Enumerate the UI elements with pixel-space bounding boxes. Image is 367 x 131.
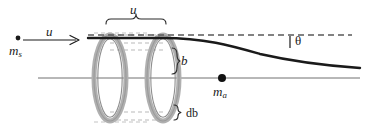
incident-mass-dot (16, 36, 21, 41)
target-mass-symbol: m (213, 84, 222, 99)
label-incident-mass: ms (9, 44, 22, 57)
label-deflection-angle: θ (295, 34, 301, 47)
label-cylinder-length-u: u (130, 3, 137, 16)
incident-mass-symbol: m (9, 43, 18, 58)
label-target-mass: ma (213, 85, 227, 98)
scattering-diagram: u u ms b db ma θ (0, 0, 367, 131)
label-velocity-u: u (46, 25, 53, 38)
target-mass-subscript: a (222, 90, 226, 100)
incident-mass-subscript: s (18, 49, 21, 59)
particle-trajectory (88, 38, 360, 68)
label-annulus-thickness: db (186, 107, 198, 119)
target-mass-dot (218, 74, 226, 82)
label-impact-parameter: b (181, 54, 188, 67)
